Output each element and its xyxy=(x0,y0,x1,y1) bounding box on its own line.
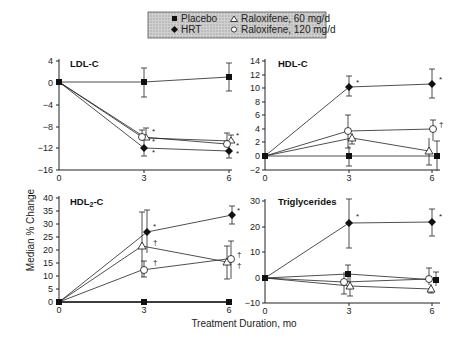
svg-text:0: 0 xyxy=(56,173,61,183)
svg-text:6: 6 xyxy=(226,305,231,315)
svg-text:0: 0 xyxy=(56,305,61,315)
svg-text:14: 14 xyxy=(250,56,260,66)
svg-text:5: 5 xyxy=(48,284,53,294)
panel-hdl-c: 141210 864 20−2 036 HDL-C xyxy=(250,56,444,183)
legend-placebo: Placebo xyxy=(181,13,218,24)
svg-text:40: 40 xyxy=(43,193,53,203)
svg-text:−10: −10 xyxy=(245,298,260,308)
svg-text:*: * xyxy=(237,206,240,215)
svg-text:*: * xyxy=(152,127,155,136)
svg-text:4: 4 xyxy=(255,124,260,134)
svg-text:−16: −16 xyxy=(38,165,53,175)
svg-text:0: 0 xyxy=(255,151,260,161)
svg-text:2: 2 xyxy=(255,137,260,147)
svg-text:†: † xyxy=(439,120,443,129)
svg-text:†: † xyxy=(153,258,157,267)
svg-text:−12: −12 xyxy=(38,143,53,153)
svg-text:15: 15 xyxy=(43,258,53,268)
y-axis-label: Median % Change xyxy=(25,188,36,271)
legend-hrt: HRT xyxy=(181,24,201,35)
svg-text:0: 0 xyxy=(255,273,260,283)
svg-text:†: † xyxy=(153,238,157,247)
svg-text:3: 3 xyxy=(346,306,351,316)
svg-text:−4: −4 xyxy=(43,100,53,110)
svg-text:6: 6 xyxy=(226,173,231,183)
svg-text:20: 20 xyxy=(43,245,53,255)
svg-text:−8: −8 xyxy=(43,122,53,132)
svg-text:10: 10 xyxy=(250,83,260,93)
legend-raloxifene-60: Raloxifene, 60 mg/d xyxy=(241,13,330,24)
svg-text:*: * xyxy=(236,149,239,158)
svg-text:*: * xyxy=(439,212,442,221)
svg-text:*: * xyxy=(152,148,155,157)
legend-raloxifene-120: Raloxifene, 120 mg/d xyxy=(241,24,336,35)
panel-triglycerides: 302010 0−10 036 Triglycerides xyxy=(245,196,442,316)
svg-text:3: 3 xyxy=(141,305,146,315)
panel-title-ldl: LDL-C xyxy=(70,58,99,69)
svg-text:30: 30 xyxy=(43,219,53,229)
svg-text:0: 0 xyxy=(262,173,267,183)
svg-text:6: 6 xyxy=(429,306,434,316)
svg-text:6: 6 xyxy=(255,110,260,120)
svg-text:*: * xyxy=(356,78,359,87)
svg-text:12: 12 xyxy=(250,70,260,80)
svg-text:4: 4 xyxy=(48,56,53,66)
panel-title-hdl2: HDL2-C xyxy=(70,196,104,208)
svg-text:0: 0 xyxy=(48,297,53,307)
svg-text:3: 3 xyxy=(346,173,351,183)
svg-text:3: 3 xyxy=(141,173,146,183)
svg-text:†: † xyxy=(237,261,241,270)
svg-text:10: 10 xyxy=(43,271,53,281)
figure-canvas: Placebo HRT Raloxifene, 60 mg/d Raloxife… xyxy=(0,0,466,347)
x-axis-label: Treatment Duration, mo xyxy=(191,318,297,329)
svg-text:35: 35 xyxy=(43,206,53,216)
svg-text:0: 0 xyxy=(262,306,267,316)
svg-text:6: 6 xyxy=(429,173,434,183)
svg-text:10: 10 xyxy=(250,247,260,257)
legend: Placebo HRT Raloxifene, 60 mg/d Raloxife… xyxy=(148,12,336,38)
panel-title-triglycerides: Triglycerides xyxy=(278,196,337,207)
svg-text:0: 0 xyxy=(48,78,53,88)
svg-text:*: * xyxy=(152,137,155,146)
svg-text:*: * xyxy=(153,222,156,231)
svg-text:*: * xyxy=(356,212,359,221)
panel-ldl-c: 40−4 −8−12−16 036 LDL-C xyxy=(38,56,239,183)
svg-text:30: 30 xyxy=(250,196,260,206)
open-circle-icon xyxy=(231,27,236,32)
svg-text:*: * xyxy=(439,75,442,84)
filled-square-icon xyxy=(172,16,177,21)
svg-text:−2: −2 xyxy=(250,165,260,175)
svg-text:20: 20 xyxy=(250,222,260,232)
svg-text:†: † xyxy=(237,250,241,259)
panel-hdl2-c: 403530 252015 1050 036 HDL2-C xyxy=(43,193,241,315)
svg-text:25: 25 xyxy=(43,232,53,242)
svg-text:8: 8 xyxy=(255,97,260,107)
svg-text:*: * xyxy=(236,131,239,140)
panel-title-hdl: HDL-C xyxy=(278,58,308,69)
